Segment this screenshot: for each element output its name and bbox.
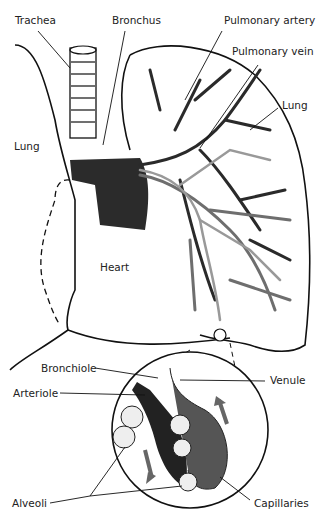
label-trachea: Trachea bbox=[15, 14, 56, 26]
label-heart: Heart bbox=[100, 261, 129, 273]
label-pulmonary-vein: Pulmonary vein bbox=[232, 45, 314, 57]
label-pulmonary-artery: Pulmonary artery bbox=[224, 14, 315, 26]
lung-illustration bbox=[0, 0, 319, 518]
lung-diagram: Trachea Bronchus Pulmonary artery Pulmon… bbox=[0, 0, 319, 518]
label-venule: Venule bbox=[270, 374, 306, 386]
label-bronchus: Bronchus bbox=[112, 14, 161, 26]
label-alveoli: Alveoli bbox=[12, 497, 47, 509]
label-bronchiole: Bronchiole bbox=[41, 362, 97, 374]
label-capillaries: Capillaries bbox=[254, 497, 309, 509]
label-lung-right: Lung bbox=[282, 99, 308, 111]
label-lung-left: Lung bbox=[14, 140, 40, 152]
label-arteriole: Arteriole bbox=[13, 387, 58, 399]
